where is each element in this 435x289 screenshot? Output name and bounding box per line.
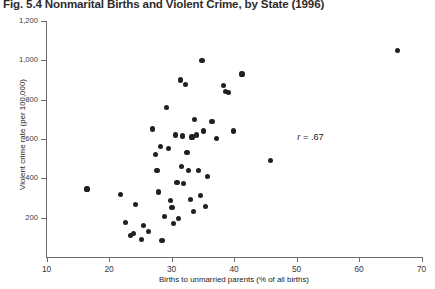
correlation-annotation: r = .67 bbox=[297, 132, 323, 143]
x-axis-tick bbox=[234, 257, 235, 262]
scatter-point bbox=[192, 117, 197, 122]
scatter-point bbox=[226, 90, 231, 95]
scatter-point bbox=[180, 133, 185, 138]
x-axis-tick-label: 40 bbox=[214, 264, 254, 274]
scatter-point bbox=[196, 168, 201, 173]
y-axis-tick-label: 1,200 bbox=[0, 17, 38, 25]
scatter-point bbox=[173, 132, 178, 137]
scatter-point bbox=[162, 214, 167, 219]
scatter-point bbox=[194, 132, 199, 137]
correlation-value: = .67 bbox=[300, 132, 323, 142]
x-axis-tick bbox=[109, 257, 110, 262]
scatter-point bbox=[178, 77, 183, 82]
scatter-point bbox=[395, 48, 400, 53]
scatter-point bbox=[214, 136, 219, 141]
scatter-plot-area bbox=[47, 21, 422, 257]
x-axis-tick bbox=[422, 257, 423, 262]
scatter-point bbox=[169, 205, 174, 210]
x-axis-tick-label: 20 bbox=[89, 264, 129, 274]
scatter-point bbox=[168, 198, 173, 203]
scatter-point bbox=[239, 71, 244, 76]
scatter-point bbox=[171, 221, 176, 226]
scatter-point bbox=[183, 82, 188, 87]
x-axis-tick-label: 30 bbox=[152, 264, 192, 274]
x-axis-tick bbox=[172, 257, 173, 262]
x-axis-tick bbox=[47, 257, 48, 262]
scatter-point bbox=[158, 144, 163, 149]
scatter-point bbox=[153, 152, 158, 157]
scatter-point bbox=[203, 204, 208, 209]
x-axis-tick bbox=[359, 257, 360, 262]
x-axis-label: Births to unmarried parents (% of all bi… bbox=[46, 275, 422, 285]
scatter-point bbox=[181, 181, 186, 186]
scatter-point bbox=[176, 216, 181, 221]
scatter-point bbox=[139, 237, 144, 242]
scatter-point bbox=[166, 146, 171, 151]
scatter-point bbox=[154, 168, 159, 173]
x-axis-tick bbox=[297, 257, 298, 262]
y-axis-label: Violent crime rate (per 100,000) bbox=[18, 55, 27, 215]
scatter-point bbox=[164, 105, 169, 110]
scatter-point bbox=[123, 220, 128, 225]
page-title: Fig. 5.4 Nonmarital Births and Violent C… bbox=[3, 0, 433, 13]
scatter-point bbox=[159, 238, 164, 243]
scatter-point bbox=[191, 209, 196, 214]
x-axis-tick-label: 70 bbox=[402, 264, 435, 274]
scatter-point bbox=[131, 231, 136, 236]
figure-container: Fig. 5.4 Nonmarital Births and Violent C… bbox=[0, 0, 435, 289]
scatter-point bbox=[141, 223, 146, 228]
scatter-point bbox=[231, 128, 236, 133]
scatter-point bbox=[268, 158, 273, 163]
x-axis-tick-label: 50 bbox=[277, 264, 317, 274]
scatter-point bbox=[221, 83, 226, 88]
scatter-point bbox=[133, 202, 138, 207]
scatter-point bbox=[174, 180, 179, 185]
scatter-point bbox=[84, 186, 89, 191]
scatter-point bbox=[179, 164, 184, 169]
scatter-point bbox=[205, 174, 210, 179]
x-axis-tick-label: 10 bbox=[27, 264, 67, 274]
scatter-point bbox=[188, 197, 193, 202]
scatter-point bbox=[150, 126, 155, 131]
scatter-point bbox=[146, 229, 151, 234]
scatter-point bbox=[184, 150, 189, 155]
scatter-point bbox=[209, 119, 214, 124]
y-axis-tick-label: 200 bbox=[0, 214, 38, 222]
scatter-point bbox=[186, 168, 191, 173]
scatter-point bbox=[156, 189, 161, 194]
x-axis-tick-label: 60 bbox=[339, 264, 379, 274]
scatter-point bbox=[198, 193, 203, 198]
scatter-point bbox=[118, 192, 123, 197]
scatter-point bbox=[199, 58, 204, 63]
scatter-point bbox=[201, 128, 206, 133]
